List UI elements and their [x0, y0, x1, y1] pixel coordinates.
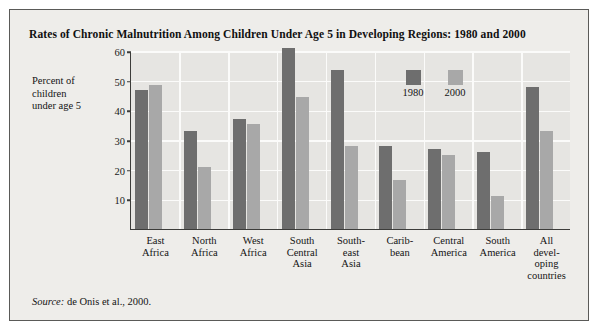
bar-1980 [184, 131, 197, 229]
bar-2000 [149, 85, 162, 229]
y-tick-label-60: 60 [115, 47, 126, 58]
bar-group: EastAfrica [131, 52, 180, 229]
bar-group: WestAfrica [229, 52, 278, 229]
y-axis-title: Percent of children under age 5 [32, 75, 124, 113]
bar-1980 [282, 48, 295, 229]
y-axis-title-line-2: children [32, 88, 124, 101]
chart-title: Rates of Chronic Malnutrition Among Chil… [29, 28, 574, 40]
bar-1980 [477, 152, 490, 229]
bar-1980 [233, 119, 246, 229]
legend-item-1980: 1980 [396, 70, 430, 98]
source-note: Source: de Onis et al., 2000. [32, 296, 151, 307]
legend-label-2000: 2000 [438, 87, 472, 98]
legend-swatch-1980 [406, 70, 421, 85]
bar-group: SouthCentralAsia [278, 52, 327, 229]
y-tick-label-30: 30 [115, 136, 126, 147]
y-tick-label-50: 50 [115, 76, 126, 87]
y-axis-title-line-1: Percent of [32, 75, 124, 88]
y-tick-label-40: 40 [115, 106, 126, 117]
source-label: Source: [32, 296, 64, 307]
source-citation: de Onis et al., 2000. [64, 296, 151, 307]
bar-2000 [247, 124, 260, 229]
figure-panel: Rates of Chronic Malnutrition Among Chil… [9, 9, 589, 321]
x-axis-label-line: devel- [516, 247, 578, 259]
legend-item-2000: 2000 [438, 70, 472, 98]
legend-swatch-2000 [448, 70, 463, 85]
bar-2000 [393, 180, 406, 229]
bar-group: SouthAmerica [473, 52, 522, 229]
bar-1980 [379, 146, 392, 229]
bar-group: NorthAfrica [180, 52, 229, 229]
bar-2000 [345, 146, 358, 229]
bar-1980 [526, 87, 539, 229]
legend-label-1980: 1980 [396, 87, 430, 98]
plot-area: 102030405060EastAfricaNorthAfricaWestAfr… [130, 52, 570, 230]
bar-1980 [331, 70, 344, 229]
bar-1980 [135, 90, 148, 229]
x-axis-label-line: All [516, 235, 578, 247]
y-tick-label-10: 10 [115, 195, 126, 206]
x-axis-label-line: oping [516, 258, 578, 270]
bar-1980 [428, 149, 441, 229]
x-axis-label: Alldevel-opingcountries [516, 235, 578, 281]
bar-group: South-eastAsia [327, 52, 376, 229]
x-axis-label-line: countries [516, 270, 578, 282]
y-axis-title-line-3: under age 5 [32, 100, 124, 113]
bar-2000 [442, 155, 455, 229]
bar-2000 [198, 167, 211, 229]
x-axis-label-line: Asia [320, 258, 382, 270]
bar-2000 [491, 196, 504, 229]
bar-2000 [540, 131, 553, 229]
y-tick-label-20: 20 [115, 165, 126, 176]
bar-2000 [296, 97, 309, 229]
bar-group: Alldevel-opingcountries [522, 52, 571, 229]
